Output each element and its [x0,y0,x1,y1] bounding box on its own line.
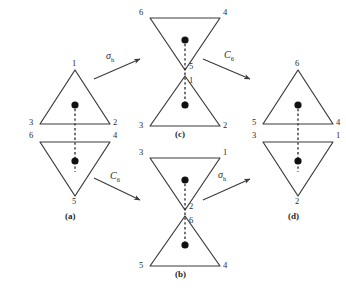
vertex-label-a-bottom-left: 6 [29,131,33,140]
vertex-label-c-bottom-left: 3 [139,121,143,130]
vertex-label-a-bottom-apex: 5 [72,197,76,206]
vertex-label-b-bottom-apex: 6 [189,216,193,225]
vertex-label-a-top-left: 3 [29,118,33,127]
caption-c: (c) [175,130,185,139]
caption-a: (a) [65,212,76,221]
vertex-label-b-top-right: 1 [223,148,227,157]
vertex-label-d-top-right: 4 [336,118,340,127]
vertex-label-c-top-right: 4 [223,8,227,17]
structure-d: 6 5 4 3 1 2 (d) [255,62,341,207]
vertex-label-d-bottom-right: 1 [336,131,340,140]
vertex-label-b-top-left: 3 [139,148,143,157]
structure-a: 1 3 2 6 4 5 (a) [32,62,118,207]
vertex-label-d-bottom-left: 3 [252,131,256,140]
vertex-label-b-bottom-right: 4 [223,261,227,270]
vertex-label-d-bottom-apex: 2 [295,197,299,206]
vertex-label-b-bottom-left: 5 [139,261,143,270]
vertex-label-c-bottom-apex: 1 [189,76,193,85]
structure-c: 6 4 5 1 3 2 (c) [142,13,228,133]
vertex-label-c-top-left: 6 [139,8,143,17]
vertex-label-a-top-apex: 1 [72,59,76,68]
vertex-label-d-top-apex: 6 [295,59,299,68]
vertex-label-c-bottom-right: 2 [223,121,227,130]
structure-b: 3 1 2 6 5 4 (b) [142,153,228,273]
vertex-label-c-top-apex: 5 [189,62,193,71]
caption-b: (b) [175,270,186,279]
vertex-label-b-top-apex: 2 [189,202,193,211]
caption-d: (d) [288,212,299,221]
figure-canvas: σh C6 C6 σh 1 3 2 6 4 5 (a) [0,0,346,290]
vertex-label-a-bottom-right: 4 [113,131,117,140]
vertex-label-d-top-left: 5 [252,118,256,127]
vertex-label-a-top-right: 2 [113,118,117,127]
